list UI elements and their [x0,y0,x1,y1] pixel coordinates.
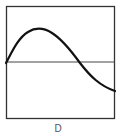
wave-diagram [0,0,116,138]
diagram-label: D [0,123,116,134]
wave-curve [6,29,115,91]
